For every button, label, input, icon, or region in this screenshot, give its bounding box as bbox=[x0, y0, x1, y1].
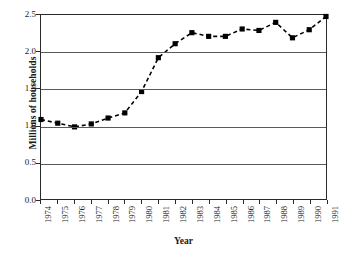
data-point-marker bbox=[105, 115, 110, 120]
data-point-marker bbox=[323, 14, 328, 19]
gridline bbox=[41, 89, 326, 90]
data-point-marker bbox=[256, 28, 261, 33]
data-point-marker bbox=[307, 27, 312, 32]
y-axis-tick-mark bbox=[36, 88, 40, 89]
data-point-marker bbox=[290, 35, 295, 40]
data-point-marker bbox=[223, 34, 228, 39]
data-point-marker bbox=[173, 41, 178, 46]
x-axis-tick-mark bbox=[158, 200, 159, 204]
chart-container: Millions of households 0.00.51.01.52.02.… bbox=[0, 0, 347, 258]
y-axis-tick-label: 2.0 bbox=[14, 47, 36, 56]
data-point-marker bbox=[240, 26, 245, 31]
y-axis-tick-mark bbox=[36, 14, 40, 15]
y-axis-tick-mark bbox=[36, 126, 40, 127]
data-point-marker bbox=[122, 110, 127, 115]
x-axis-tick-label: 1988 bbox=[280, 206, 289, 236]
x-axis-tick-mark bbox=[40, 200, 41, 204]
gridline bbox=[41, 164, 326, 165]
x-axis-tick-label: 1977 bbox=[95, 206, 104, 236]
data-point-marker bbox=[206, 34, 211, 39]
x-axis-tick-label: 1990 bbox=[314, 206, 323, 236]
y-axis-tick-mark bbox=[36, 163, 40, 164]
x-axis-title: Year bbox=[40, 236, 327, 246]
x-axis-tick-label: 1987 bbox=[263, 206, 272, 236]
x-axis-tick-mark bbox=[243, 200, 244, 204]
x-axis-tick-mark bbox=[141, 200, 142, 204]
y-axis-tick-label: 1.5 bbox=[14, 84, 36, 93]
data-point-marker bbox=[55, 121, 60, 126]
y-axis-tick-labels: 0.00.51.01.52.02.5 bbox=[12, 0, 36, 258]
x-axis-tick-label: 1981 bbox=[162, 206, 171, 236]
x-axis-tick-mark bbox=[74, 200, 75, 204]
data-point-marker bbox=[189, 30, 194, 35]
x-axis-tick-label: 1980 bbox=[145, 206, 154, 236]
y-axis-tick-label: 0.0 bbox=[14, 196, 36, 205]
plot-area bbox=[40, 14, 327, 200]
x-axis-tick-mark bbox=[192, 200, 193, 204]
x-axis-tick-label: 1991 bbox=[331, 206, 340, 236]
x-axis-tick-label: 1975 bbox=[61, 206, 70, 236]
y-axis-tick-label: 1.0 bbox=[14, 121, 36, 130]
x-axis-tick-mark bbox=[259, 200, 260, 204]
x-axis-tick-label: 1989 bbox=[297, 206, 306, 236]
series-polyline bbox=[41, 16, 326, 126]
x-axis-tick-mark bbox=[57, 200, 58, 204]
x-axis-tick-label: 1979 bbox=[128, 206, 137, 236]
x-axis-tick-label: 1985 bbox=[230, 206, 239, 236]
gridline bbox=[41, 52, 326, 53]
x-axis-tick-mark bbox=[293, 200, 294, 204]
data-series-line bbox=[41, 15, 326, 199]
x-axis-tick-mark bbox=[310, 200, 311, 204]
x-axis-tick-label: 1983 bbox=[196, 206, 205, 236]
x-axis-tick-mark bbox=[175, 200, 176, 204]
x-axis-tick-label: 1984 bbox=[213, 206, 222, 236]
x-axis-tick-label: 1982 bbox=[179, 206, 188, 236]
x-axis-tick-label: 1986 bbox=[247, 206, 256, 236]
y-axis-tick-label: 0.5 bbox=[14, 158, 36, 167]
x-axis-tick-mark bbox=[209, 200, 210, 204]
x-axis-tick-label: 1974 bbox=[44, 206, 53, 236]
y-axis-tick-label: 2.5 bbox=[14, 10, 36, 19]
x-axis-tick-mark bbox=[91, 200, 92, 204]
x-axis-tick-mark bbox=[327, 200, 328, 204]
x-axis-tick-mark bbox=[276, 200, 277, 204]
data-point-marker bbox=[156, 55, 161, 60]
data-point-marker bbox=[273, 20, 278, 25]
x-axis-tick-mark bbox=[124, 200, 125, 204]
x-axis-tick-mark bbox=[226, 200, 227, 204]
x-axis-tick-label: 1978 bbox=[112, 206, 121, 236]
y-axis-tick-mark bbox=[36, 51, 40, 52]
x-axis-tick-label: 1976 bbox=[78, 206, 87, 236]
x-axis-tick-mark bbox=[108, 200, 109, 204]
data-point-marker bbox=[38, 117, 43, 122]
gridline bbox=[41, 127, 326, 128]
